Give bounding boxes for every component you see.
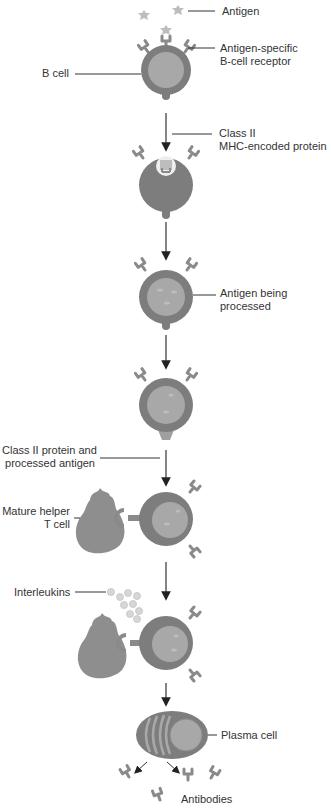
antigen-icon (172, 5, 184, 15)
stage-7-plasma-cell (120, 711, 220, 801)
antigen-icon (160, 25, 172, 35)
stage-1-b-cell (75, 5, 215, 100)
interleukin-icons (108, 589, 143, 623)
stage-6-interleukins (75, 589, 200, 681)
stage-3-processing (135, 259, 216, 330)
label-class2-mhc: Class II MHC-encoded protein (219, 127, 327, 153)
label-interleukins: Interleukins (14, 586, 70, 599)
label-plasma-cell: Plasma cell (221, 729, 277, 742)
stage-5-t-cell-binding (74, 481, 200, 557)
b-cell-activation-diagram (0, 0, 331, 810)
label-antigen-processing: Antigen being processed (220, 287, 287, 313)
label-helper-t-cell: Mature helper T cell (2, 505, 70, 531)
label-antibodies: Antibodies (181, 793, 232, 806)
label-b-cell: B cell (42, 67, 69, 80)
label-class2-processed-antigen: Class II protein and processed antigen (2, 444, 95, 470)
label-b-cell-receptor: Antigen-specific B-cell receptor (220, 42, 298, 68)
antigen-icon (138, 10, 150, 20)
stage-2-internalization (133, 147, 198, 219)
label-antigen: Antigen (222, 5, 259, 18)
stage-4-presentation (135, 369, 196, 440)
